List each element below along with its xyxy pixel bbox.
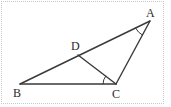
segments-group xyxy=(20,21,150,84)
segment-DC xyxy=(78,55,116,84)
angle-arc-C xyxy=(103,76,106,84)
vertex-label-a: A xyxy=(146,7,155,19)
vertex-label-d: D xyxy=(71,40,80,52)
vertex-label-b: B xyxy=(13,87,21,99)
angle-arc-A xyxy=(136,28,143,35)
angle-arcs-group xyxy=(103,28,142,84)
segment-AC xyxy=(116,21,150,84)
geometry-figure-canvas: A B C D xyxy=(0,0,171,107)
segment-BA xyxy=(20,21,150,84)
vertex-label-c: C xyxy=(112,88,120,100)
